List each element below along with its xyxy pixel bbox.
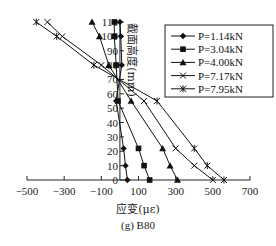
legend-label: P=7.95kN (198, 83, 243, 95)
x-tick-label: 300 (167, 185, 184, 197)
y-tick-label: 0 (112, 174, 118, 186)
legend-label: P=4.00kN (198, 56, 243, 68)
legend-label: P=7.17kN (198, 70, 243, 82)
x-tick-label: −500 (16, 185, 39, 197)
y-axis-title: 截面高度(mm) (125, 23, 139, 96)
x-tick-label: 700 (242, 185, 259, 197)
x-tick-label: 100 (130, 185, 147, 197)
y-tick-label: 90 (107, 45, 119, 57)
y-tick-label: 10 (107, 160, 119, 172)
legend: P=1.14kNP=3.04kNP=4.00kNP=7.17kNP=7.95kN (165, 25, 273, 97)
legend-label: P=3.04kN (198, 43, 243, 55)
legend-label: P=1.14kN (198, 30, 243, 42)
figure-caption: (g) B80 (121, 219, 155, 232)
y-tick-label: 30 (107, 131, 119, 143)
x-tick-label: 500 (205, 185, 222, 197)
strain-height-chart: −500−300−1001003005007000102030405060708… (0, 0, 276, 246)
x-tick-label: −300 (53, 185, 76, 197)
y-tick-label: 40 (107, 117, 119, 129)
y-tick-label: 20 (107, 145, 119, 157)
x-axis-title: 应变(με) (116, 202, 159, 216)
x-tick-label: −100 (90, 185, 113, 197)
